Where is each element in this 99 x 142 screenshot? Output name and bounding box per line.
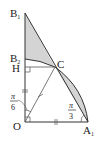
angle-label-O-num: π — [11, 92, 16, 101]
label-B1: B1 — [10, 7, 20, 20]
angle-label-A1-num: π — [69, 101, 74, 110]
angle-label-O-den: 6 — [11, 103, 15, 112]
angle-label-A1-den: 3 — [69, 112, 73, 121]
segment-OC — [25, 67, 55, 122]
angle-arc-O — [25, 110, 31, 112]
label-C: C — [57, 58, 64, 70]
angle-leader-O — [18, 100, 27, 110]
tick-mark-OC — [38, 94, 43, 97]
label-O: O — [13, 120, 21, 132]
right-angle-mark-H — [25, 67, 30, 72]
label-H: H — [12, 62, 20, 74]
label-A1: A1 — [83, 124, 94, 137]
angle-arc-A1 — [81, 115, 84, 122]
geometry-diagram: B1 B2 H C O A1 π 6 π 3 — [0, 0, 99, 142]
